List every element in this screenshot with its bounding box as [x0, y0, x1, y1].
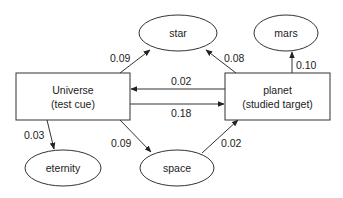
eternity-label: eternity	[46, 162, 81, 174]
planet-box	[225, 73, 330, 120]
universe-box	[16, 73, 130, 120]
edge-label-universe-planet: 0.18	[171, 107, 192, 119]
node-space: space	[140, 150, 214, 186]
edge-label-planet-mars: 0.10	[296, 59, 317, 71]
edge-label-universe-eternity: 0.03	[24, 129, 45, 141]
node-mars: mars	[254, 15, 318, 51]
universe-sublabel: (test cue)	[51, 98, 95, 110]
node-universe: Universe (test cue)	[16, 73, 130, 120]
node-star: star	[139, 15, 217, 51]
mars-label: mars	[274, 27, 297, 39]
node-eternity: eternity	[25, 150, 101, 186]
star-label: star	[169, 27, 187, 39]
planet-sublabel: (studied target)	[242, 98, 313, 110]
universe-label: Universe	[52, 84, 94, 96]
planet-label: planet	[263, 84, 292, 96]
edge-label-planet-universe: 0.02	[171, 75, 192, 87]
node-planet: planet (studied target)	[225, 73, 330, 120]
edge-label-space-planet: 0.02	[221, 137, 242, 149]
edge-label-universe-star: 0.09	[110, 52, 131, 64]
edge-universe-to-eternity	[47, 120, 54, 149]
space-label: space	[163, 162, 191, 174]
edge-label-universe-space: 0.09	[111, 137, 132, 149]
association-network-diagram: 0.09 0.08 0.10 0.02 0.18 0.03 0.09 0.02 …	[0, 0, 343, 198]
edge-label-planet-star: 0.08	[224, 52, 245, 64]
